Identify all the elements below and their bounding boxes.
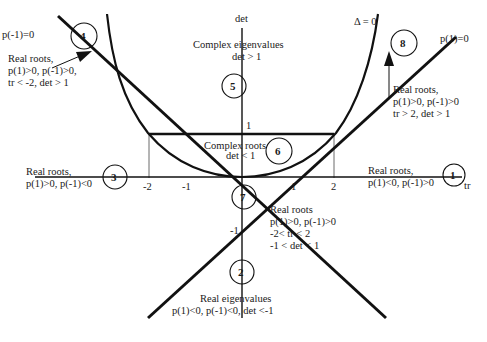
- discriminant-label: Δ = 0: [354, 16, 377, 27]
- tick-tr-minus-2: -2: [143, 181, 152, 192]
- svg-text:7: 7: [240, 191, 246, 203]
- tick-det-1: 1: [246, 120, 251, 131]
- region-8-text: Real roots, p(1)>0, p(-1)>0 tr > 2, det …: [393, 84, 462, 119]
- p-plus-one-label: p(1)=0: [440, 33, 469, 45]
- tr-axis-label: tr: [464, 180, 471, 191]
- svg-text:3: 3: [111, 171, 117, 183]
- p-minus-one-label: p(-1)=0: [2, 29, 34, 41]
- tick-tr-2: 2: [331, 181, 336, 192]
- p-minus-one-line: [58, 16, 386, 318]
- region-4-text: Real roots, p(1)>0, p(-1)>0, tr < -2, de…: [8, 53, 79, 88]
- tick-tr-minus-1: -1: [182, 181, 191, 192]
- region-3-text: Real roots, p(1)>0, p(-1)<0: [26, 166, 92, 190]
- svg-text:5: 5: [230, 80, 236, 92]
- region-7-text: Real roots p(1)>0, p(-1)>0 -2< tr < 2 -1…: [270, 204, 339, 251]
- region-1-text: Real roots, p(1)<0, p(-1)>0: [368, 165, 434, 189]
- svg-text:8: 8: [400, 37, 406, 49]
- region-marker-4: 4: [71, 23, 97, 49]
- svg-text:4: 4: [80, 30, 86, 42]
- tick-det-minus-1: -1: [230, 225, 239, 236]
- tick-tr-1: 1: [291, 181, 296, 192]
- region-5-text: Complex eigenvalues det > 1: [193, 39, 286, 62]
- stability-triangle-diagram: det tr -2 -1 1 2 1 -1 Δ = 0 p(1)=0 p(-1)…: [0, 0, 487, 342]
- det-axis-label: det: [235, 13, 248, 24]
- region-2-text: Real eigenvalues p(1)<0, p(-1)<0, det <-…: [172, 293, 274, 317]
- region-marker-6: 6: [266, 138, 292, 164]
- region-marker-1: 1: [443, 164, 465, 186]
- svg-text:2: 2: [238, 266, 244, 278]
- svg-text:6: 6: [275, 145, 281, 157]
- svg-text:1: 1: [450, 169, 456, 181]
- region-marker-8: 8: [391, 30, 417, 56]
